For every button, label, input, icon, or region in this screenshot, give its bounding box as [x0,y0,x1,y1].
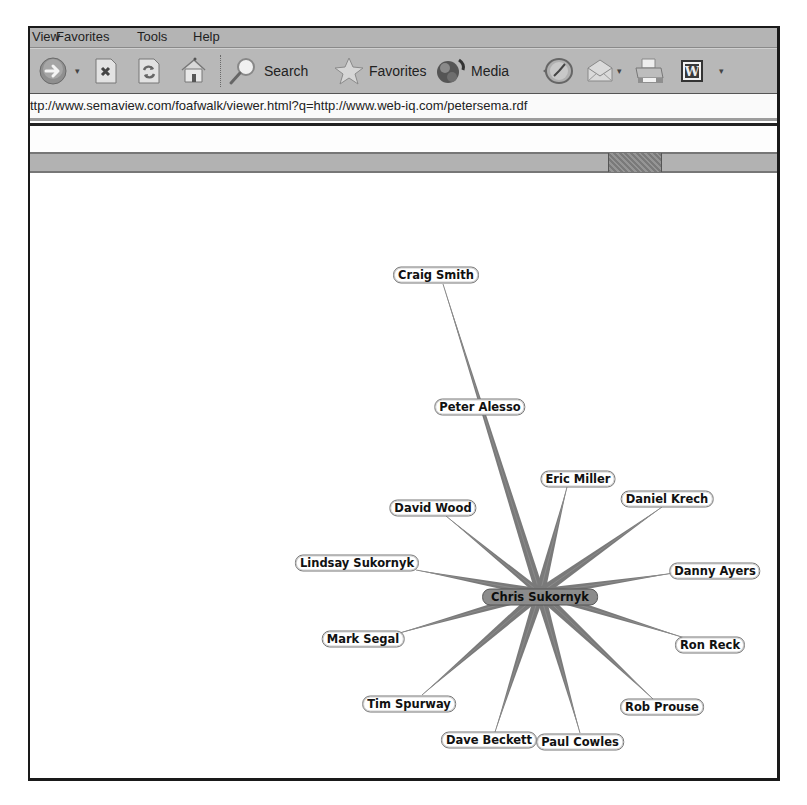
graph-node[interactable]: Daniel Krech [621,491,714,508]
foaf-graph-canvas: Craig SmithPeter AlessoEric MillerDaniel… [30,173,777,778]
graph-edges [28,26,780,781]
graph-node[interactable]: Ron Reck [675,637,745,654]
edge-wedge [443,284,544,594]
graph-node[interactable]: Dave Beckett [441,732,537,749]
graph-node[interactable]: Lindsay Sukornyk [295,555,419,572]
graph-node-center[interactable]: Chris Sukornyk [482,589,598,606]
graph-node[interactable]: Danny Ayers [669,563,760,580]
graph-node[interactable]: Paul Cowles [536,734,624,751]
graph-node[interactable]: Peter Alesso [434,399,525,416]
graph-node[interactable]: Rob Prouse [620,699,704,716]
browser-window: View Favorites Tools Help ▾ Search [28,26,780,781]
graph-node[interactable]: David Wood [389,500,476,517]
edge-line [443,284,540,593]
graph-node[interactable]: Mark Segal [322,631,405,648]
graph-node[interactable]: Tim Spurway [362,696,456,713]
graph-node[interactable]: Craig Smith [393,267,479,284]
graph-node[interactable]: Eric Miller [540,471,615,488]
